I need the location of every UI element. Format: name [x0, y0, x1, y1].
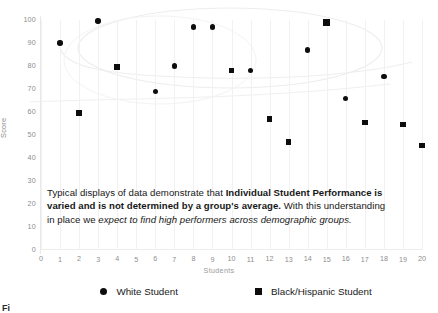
x-tick-label: 16	[338, 255, 354, 263]
y-tick-label: 40	[28, 154, 36, 162]
gridline-vertical	[41, 20, 42, 250]
x-tick-label: 7	[166, 256, 182, 264]
x-tick-label: 17	[357, 256, 373, 264]
legend-label-black-hispanic-student: Black/Hispanic Student	[271, 286, 372, 297]
x-tick-label: 20	[414, 255, 430, 263]
x-tick-label: 1	[52, 256, 68, 264]
x-tick-label: 18	[376, 255, 392, 263]
data-point-square	[229, 68, 235, 74]
data-point-square	[286, 139, 292, 145]
chart-legend: White Student Black/Hispanic Student	[0, 286, 438, 306]
x-tick-label: 11	[243, 256, 259, 264]
x-tick-label: 4	[109, 255, 125, 263]
x-axis-title: Students	[0, 266, 438, 275]
x-tick-label: 5	[128, 256, 144, 264]
annot-line4-italic: demographic groups.	[261, 214, 352, 225]
data-point-circle	[153, 89, 158, 94]
x-tick-label: 12	[262, 255, 278, 263]
annot-line1-plain: Typical displays of data demonstrate tha…	[47, 187, 226, 198]
annotation-text: Typical displays of data demonstrate tha…	[47, 186, 393, 226]
x-tick-label: 0	[33, 255, 49, 263]
x-tick-label: 2	[71, 255, 87, 263]
data-point-square	[323, 19, 330, 26]
x-tick-label: 15	[319, 256, 335, 264]
data-point-square	[114, 64, 120, 70]
data-point-circle	[248, 68, 253, 73]
x-tick-label: 13	[281, 256, 297, 264]
data-point-circle	[210, 24, 215, 29]
data-point-square	[76, 110, 82, 116]
x-tick-label: 10	[224, 255, 240, 263]
x-tick-label: 3	[90, 256, 106, 264]
legend-label-white-student: White Student	[116, 286, 178, 297]
y-tick-label: 90	[28, 39, 36, 47]
data-point-circle	[305, 47, 310, 52]
data-point-circle	[95, 18, 100, 23]
data-point-square	[419, 143, 425, 149]
x-tick-label: 14	[300, 255, 316, 263]
y-tick-label: 0	[32, 246, 36, 254]
data-point-circle	[381, 74, 386, 79]
data-point-circle	[57, 40, 62, 45]
data-point-circle	[191, 24, 196, 29]
y-axis-title: Score	[0, 118, 8, 138]
y-tick-label: 80	[28, 62, 36, 70]
y-tick-label: 20	[28, 200, 36, 208]
y-tick-label: 50	[28, 131, 36, 139]
legend-item-white-student[interactable]: White Student	[100, 286, 178, 297]
x-tick-label: 6	[147, 255, 163, 263]
gridline-vertical	[403, 20, 404, 250]
data-point-square	[400, 122, 406, 128]
data-point-square	[267, 116, 273, 122]
figure-root: 0102030405060708090100 Score 01234567891…	[0, 0, 438, 313]
data-point-circle	[343, 96, 348, 101]
x-tick-label: 19	[395, 256, 411, 264]
annot-line3-italic: expect to find high performers across	[98, 214, 258, 225]
square-marker-icon	[255, 288, 262, 295]
x-tick-label: 9	[204, 256, 220, 264]
figure-caption: Fi	[2, 303, 10, 313]
circle-marker-icon	[100, 288, 107, 295]
annot-line2-plain: With	[281, 200, 303, 211]
y-tick-label: 70	[28, 85, 36, 93]
x-tick-label: 8	[185, 255, 201, 263]
gridline-vertical	[422, 20, 423, 250]
legend-item-black-hispanic-student[interactable]: Black/Hispanic Student	[255, 286, 372, 297]
y-tick-label: 60	[28, 108, 36, 116]
y-tick-label: 10	[28, 223, 36, 231]
y-tick-label: 100	[23, 16, 36, 24]
annot-line1-bold: Individual Student	[226, 187, 310, 198]
data-point-circle	[172, 63, 177, 68]
y-tick-label: 30	[28, 177, 36, 185]
data-point-square	[362, 120, 368, 126]
